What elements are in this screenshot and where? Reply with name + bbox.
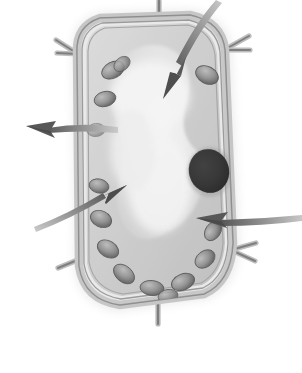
answer-row: b. [0, 340, 302, 373]
cell-diagram-figure [0, 0, 302, 340]
plant-cell-illustration [0, 0, 302, 340]
cell-interior [70, 10, 245, 310]
